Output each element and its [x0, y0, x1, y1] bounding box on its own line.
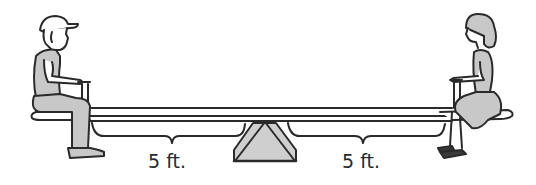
boy-figure: [33, 16, 104, 158]
seesaw-diagram: [0, 0, 536, 185]
right-distance-label: 5 ft.: [342, 150, 380, 172]
left-distance-brace: [92, 123, 245, 143]
girl-figure: [438, 14, 501, 158]
left-distance-label: 5 ft.: [148, 150, 186, 172]
right-distance-brace: [288, 123, 445, 143]
fulcrum: [234, 122, 296, 161]
seesaw-plank: [86, 108, 452, 121]
